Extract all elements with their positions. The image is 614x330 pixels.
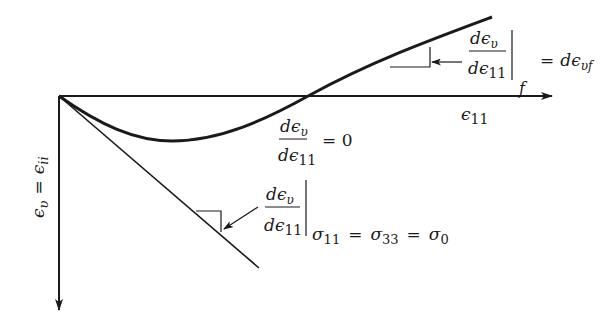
svg-text:dϵυ: dϵυ bbox=[266, 184, 294, 207]
svg-text:=dϵυf: =dϵυf bbox=[540, 50, 595, 73]
initial-slope-label: dϵυ dϵ11 σ11=σ33=σ0 bbox=[264, 180, 449, 247]
svg-text:σ11=σ33=σ0: σ11=σ33=σ0 bbox=[312, 224, 449, 247]
volumetric-strain-curve bbox=[59, 17, 492, 141]
svg-text:dϵ11: dϵ11 bbox=[278, 145, 316, 168]
x-axis-label: ϵ11 bbox=[461, 104, 488, 127]
final-slope-label: dϵυ dϵ11 f =dϵυf bbox=[468, 28, 595, 98]
svg-text:dϵυ: dϵυ bbox=[470, 28, 498, 51]
final-slope-triangle bbox=[390, 47, 430, 67]
zero-slope-label: dϵυ dϵ11 = 0 bbox=[278, 116, 352, 168]
svg-text:= 0: = 0 bbox=[322, 130, 352, 150]
svg-text:dϵ11: dϵ11 bbox=[468, 58, 506, 81]
initial-slope-arrow bbox=[224, 207, 258, 229]
svg-text:dϵυ: dϵυ bbox=[280, 116, 308, 139]
svg-text:dϵ11: dϵ11 bbox=[264, 215, 302, 238]
y-axis-label: ϵυ=ϵii bbox=[28, 156, 51, 218]
initial-tangent-line bbox=[59, 96, 259, 268]
initial-slope-triangle bbox=[196, 211, 221, 232]
strain-diagram: ϵ11 ϵυ=ϵii dϵυ dϵ11 f =dϵυf dϵυ dϵ11 = 0… bbox=[0, 0, 614, 330]
